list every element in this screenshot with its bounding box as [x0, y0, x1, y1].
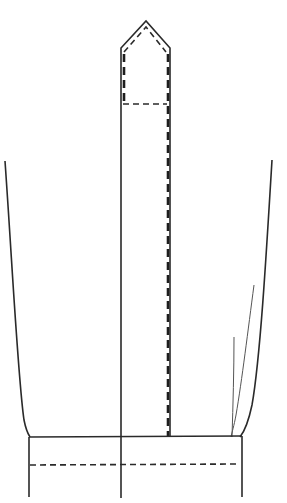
sleeve-left-seam [5, 161, 30, 437]
cuff-band [29, 436, 242, 498]
cuff-top-edge [29, 436, 242, 437]
diagram-svg [0, 0, 287, 503]
pattern-diagram [0, 0, 287, 503]
placket-topstitch [123, 27, 168, 437]
placket-point-stitch [124, 27, 166, 52]
placket-outline [121, 21, 170, 437]
cuff-topstitch [30, 464, 240, 465]
pleat-line-inner [232, 337, 234, 437]
placket-strip [121, 21, 170, 437]
sleeve-right-seam [240, 160, 272, 437]
